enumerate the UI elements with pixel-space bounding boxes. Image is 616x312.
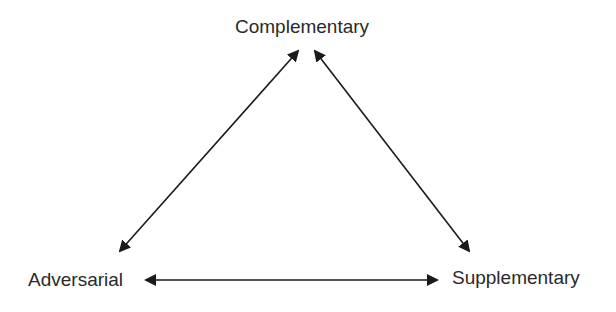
diagram-canvas <box>0 0 616 312</box>
edge-complementary-supplementary <box>315 51 469 251</box>
node-supplementary: Supplementary <box>452 268 580 287</box>
node-adversarial: Adversarial <box>28 270 123 289</box>
node-complementary: Complementary <box>235 17 369 36</box>
edge-complementary-adversarial <box>120 51 298 251</box>
